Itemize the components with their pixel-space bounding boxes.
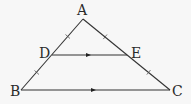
parallel-arrow-icon-de [86,53,91,57]
vertex-label-b: B [10,83,20,99]
parallel-arrow-icon-bc [91,88,96,92]
vertex-label-d: D [39,45,50,61]
vertex-label-a: A [76,2,88,18]
vertex-label-e: E [131,45,141,61]
vertex-label-c: C [172,83,183,99]
triangle-diagram: A D E B C [0,0,191,104]
